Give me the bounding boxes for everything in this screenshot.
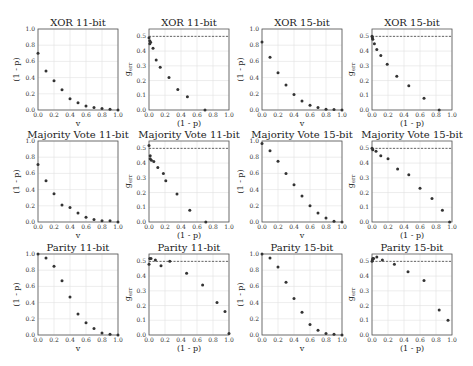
x-tick-label: 0.6 [305,111,315,118]
data-point [93,218,96,221]
y-tick-label: 0.2 [359,189,369,196]
y-tick-label: 0.2 [249,202,259,209]
data-point [149,154,152,157]
y-tick-label: 0.6 [25,57,35,64]
data-point [150,257,153,260]
data-point [148,144,151,147]
y-tick-label: 1.0 [25,25,35,32]
data-point [93,327,96,330]
chart-panel: 0.00.20.40.60.81.00.00.10.20.30.40.5XOR … [346,17,457,128]
data-point [375,48,378,51]
chart-title: Parity 11-bit [158,242,221,253]
y-tick-label: 0.2 [136,302,146,309]
y-tick-label: 0.5 [359,257,369,264]
x-tick-label: 0.8 [208,111,218,118]
data-point [269,56,272,59]
y-tick-label: 0.8 [249,153,259,160]
y-tick-label: 0.2 [359,302,369,309]
data-point [277,265,280,268]
axes-frame [38,254,118,335]
data-point [285,83,288,86]
y-tick-label: 0.0 [136,331,146,338]
y-tick-label: 0.4 [359,272,369,279]
chart-title: Majority Vote 15-bit [251,129,352,140]
data-point [371,38,374,41]
y-tick-label: 0.5 [359,144,369,151]
x-tick-label: 0.4 [399,111,409,118]
y-tick-label: 0.2 [249,90,259,97]
x-tick-label: 0.4 [176,223,186,230]
chart-panel: 0.00.20.40.60.81.00.00.10.20.30.40.5Pari… [346,242,457,353]
data-point [228,332,231,335]
y-tick-label: 0.6 [249,282,259,289]
x-tick-label: 0.8 [97,223,107,230]
data-point [375,255,378,258]
x-tick-label: 0.8 [431,223,441,230]
chart-panel: 0.00.20.40.60.81.00.00.10.20.30.40.5XOR … [123,17,234,128]
x-tick-label: 1.0 [113,111,123,118]
data-point [152,160,155,163]
chart-panel: 0.00.20.40.60.81.00.00.10.20.30.40.5Pari… [123,242,234,353]
x-tick-label: 0.8 [97,336,107,343]
x-tick-label: 1.0 [224,223,234,230]
data-point [77,312,80,315]
y-tick-label: 0.3 [136,62,146,69]
data-point [61,88,64,91]
data-point [45,179,48,182]
x-tick-label: 0.2 [273,223,283,230]
data-point [293,93,296,96]
data-point [117,334,120,337]
y-axis-label: (1 - p) [12,169,21,193]
data-point [61,203,64,206]
y-tick-label: 0.3 [136,287,146,294]
y-tick-label: 0.5 [136,257,146,264]
data-point [309,204,312,207]
data-point [301,195,304,198]
x-tick-label: 0.6 [415,111,425,118]
data-point [61,279,64,282]
data-point [325,216,328,219]
data-point [333,220,336,223]
data-point [441,209,444,212]
data-point [69,206,72,209]
x-tick-label: 0.4 [65,336,75,343]
data-point [309,323,312,326]
data-point [341,334,344,337]
x-tick-label: 0.8 [208,223,218,230]
y-tick-label: 0.2 [359,77,369,84]
y-tick-label: 1.0 [249,25,259,32]
x-tick-label: 0.2 [49,111,59,118]
y-tick-label: 0.8 [25,266,35,273]
data-point [285,281,288,284]
y-tick-label: 0.1 [359,91,369,98]
x-tick-label: 0.4 [289,336,299,343]
chart-title: Majority Vote 11-bit [138,129,239,140]
data-point [69,97,72,100]
x-tick-label: 0.6 [192,223,202,230]
x-tick-label: 0.8 [431,336,441,343]
x-tick-label: 0.6 [81,111,91,118]
chart-panel: 0.00.20.40.60.81.00.00.20.40.60.81.0XOR … [12,17,123,128]
y-tick-label: 0.4 [25,74,35,81]
y-tick-label: 0.6 [249,169,259,176]
data-point [204,221,207,224]
data-point [152,47,155,50]
y-tick-label: 0.0 [249,106,259,113]
data-point [185,272,188,275]
data-point [45,257,48,260]
y-axis-label: gerr [123,62,133,76]
y-tick-label: 0.5 [359,32,369,39]
data-point [69,295,72,298]
y-axis-label: gerr [123,287,133,301]
y-tick-label: 0.0 [25,218,35,225]
data-point [269,149,272,152]
data-point [386,63,389,66]
y-tick-label: 0.3 [359,62,369,69]
x-tick-label: 0.4 [289,223,299,230]
y-tick-label: 0.1 [359,316,369,323]
y-axis-label: gerr [346,174,356,188]
x-tick-label: 0.2 [160,336,170,343]
chart-title: XOR 11-bit [50,17,106,28]
data-point [333,333,336,336]
x-tick-label: 0.2 [49,336,59,343]
